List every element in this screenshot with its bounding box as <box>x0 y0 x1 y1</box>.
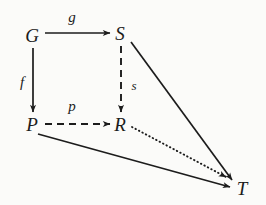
node-label-P: P <box>26 115 38 134</box>
node-label-R: R <box>114 115 126 134</box>
diagram-canvas <box>0 0 266 205</box>
node-label-G: G <box>25 26 39 45</box>
node-label-T: T <box>237 179 248 198</box>
edge-s-to-t-solid <box>131 42 232 180</box>
commutative-diagram: G S P R T g f p s <box>0 0 266 205</box>
edge-label-f: f <box>20 75 24 90</box>
edge-label-s: s <box>131 79 136 92</box>
edge-label-g: g <box>68 10 76 25</box>
node-label-S: S <box>115 24 125 43</box>
edge-label-p: p <box>68 99 76 114</box>
edge-p-to-t-solid <box>38 134 230 187</box>
